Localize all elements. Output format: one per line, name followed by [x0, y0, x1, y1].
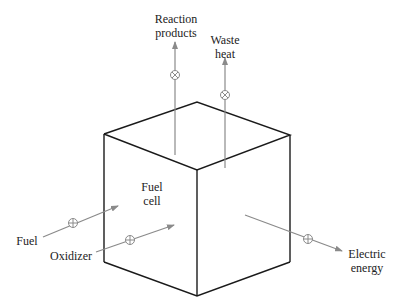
electric-energy-arrow — [245, 215, 342, 251]
label-line: energy — [344, 261, 390, 275]
fuel-arrow — [43, 206, 118, 237]
flow-meter-icons — [69, 71, 313, 245]
reaction-products-label: Reaction products — [145, 12, 207, 40]
waste-heat-label: Waste heat — [205, 33, 245, 61]
label-line: Reaction — [145, 12, 207, 26]
fuel-label: Fuel — [14, 234, 40, 248]
label-line: Electric — [344, 247, 390, 261]
oxidizer-label: Oxidizer — [46, 249, 96, 263]
x-circle-icon — [171, 71, 180, 80]
label-line: heat — [205, 47, 245, 61]
label-line: cell — [132, 194, 172, 208]
label-line: Fuel — [132, 180, 172, 194]
plus-circle-icon — [304, 235, 313, 244]
x-circle-icon — [221, 91, 230, 100]
electric-energy-label: Electric energy — [344, 247, 390, 275]
fuel-cell-label: Fuel cell — [132, 180, 172, 208]
oxidizer-arrow — [96, 225, 174, 252]
label-line: products — [145, 26, 207, 40]
plus-circle-icon — [126, 236, 135, 245]
label-line: Waste — [205, 33, 245, 47]
plus-circle-icon — [69, 219, 78, 228]
